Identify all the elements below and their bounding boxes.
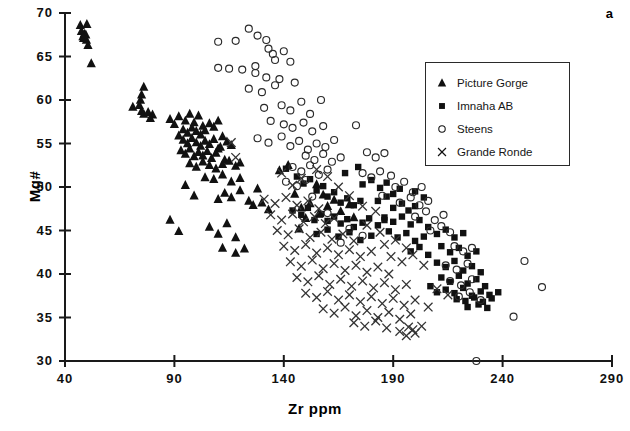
data-point (282, 193, 291, 202)
data-point (271, 199, 280, 208)
data-point (324, 193, 330, 199)
data-point (287, 143, 294, 150)
data-point (369, 284, 378, 293)
data-point (438, 274, 444, 280)
data-point (341, 303, 350, 312)
data-point (438, 223, 445, 230)
data-point (478, 269, 484, 275)
data-point (334, 183, 343, 192)
data-point (353, 122, 360, 129)
data-point (254, 135, 261, 142)
data-point (181, 180, 190, 189)
data-point (194, 110, 203, 119)
data-point (460, 230, 466, 236)
data-point (521, 257, 528, 264)
data-point (220, 188, 229, 197)
data-point (371, 317, 380, 326)
data-point (350, 318, 359, 327)
data-point (464, 304, 470, 310)
data-point (371, 207, 380, 216)
x-tick-label: 40 (35, 371, 95, 386)
data-point (324, 166, 331, 173)
data-point (376, 228, 385, 237)
data-point (356, 298, 365, 307)
data-point (510, 313, 517, 320)
data-point (420, 261, 429, 270)
data-point (337, 199, 343, 205)
x-tick-label: 290 (582, 371, 630, 386)
data-point (320, 123, 327, 130)
data-point (252, 70, 259, 77)
data-point (330, 195, 339, 204)
data-point (440, 211, 447, 218)
data-point (87, 58, 96, 67)
data-point (434, 259, 440, 265)
x-tick-label: 90 (144, 371, 204, 386)
data-point (406, 310, 415, 319)
data-point (222, 218, 231, 227)
data-point (313, 187, 319, 193)
data-point (263, 36, 270, 43)
data-point (374, 263, 383, 272)
data-point (267, 117, 274, 124)
y-tick-label: 45 (13, 223, 53, 238)
data-point (336, 206, 345, 215)
data-point (189, 191, 198, 200)
data-point (488, 295, 494, 301)
filled-square-icon (436, 100, 448, 112)
data-point (293, 273, 302, 282)
data-point (352, 311, 361, 320)
legend-item-grande-ronde[interactable]: Grande Ronde (436, 141, 532, 163)
y-tick-label: 65 (13, 49, 53, 64)
data-point (128, 102, 137, 111)
y-tick-label: 30 (13, 353, 53, 368)
data-point (287, 58, 294, 65)
data-point (324, 210, 331, 217)
data-point (330, 259, 339, 268)
data-point (258, 89, 265, 96)
data-point (434, 231, 440, 237)
data-point (319, 305, 328, 314)
data-point (378, 299, 387, 308)
chart-legend: Picture GorgeImnaha ABSteensGrande Ronde (425, 62, 570, 166)
data-point (280, 121, 287, 128)
data-point (215, 64, 222, 71)
data-point (495, 289, 501, 295)
data-point (312, 179, 321, 188)
data-point (328, 158, 335, 165)
data-point (399, 213, 405, 219)
data-point (424, 303, 433, 312)
data-point (296, 137, 303, 144)
data-point (298, 98, 305, 105)
data-point (200, 172, 209, 181)
data-point (405, 207, 411, 213)
data-point (289, 124, 296, 131)
data-point (302, 152, 309, 159)
data-point (411, 296, 420, 305)
legend-item-picture-gorge[interactable]: Picture Gorge (436, 72, 528, 94)
data-point (345, 291, 354, 300)
data-point (417, 322, 426, 331)
data-point (334, 251, 343, 260)
data-point (349, 212, 358, 221)
data-point (453, 266, 460, 273)
data-point (431, 217, 438, 224)
data-point (397, 186, 403, 192)
legend-item-steens[interactable]: Steens (436, 118, 493, 140)
filled-triangle-icon (436, 77, 448, 89)
data-point (309, 128, 316, 135)
data-point (261, 104, 268, 111)
legend-item-label: Imnaha AB (457, 100, 513, 112)
data-point (425, 252, 431, 258)
data-point (377, 185, 383, 191)
data-point (418, 184, 425, 191)
legend-item-imnaha-ab[interactable]: Imnaha AB (436, 95, 513, 117)
data-point (218, 243, 227, 252)
data-point (277, 216, 286, 225)
data-point (209, 174, 218, 183)
data-point (423, 208, 430, 215)
data-point (386, 228, 392, 234)
data-point (253, 184, 262, 193)
x-tick-label: 190 (363, 371, 423, 386)
cross-icon (436, 146, 448, 158)
